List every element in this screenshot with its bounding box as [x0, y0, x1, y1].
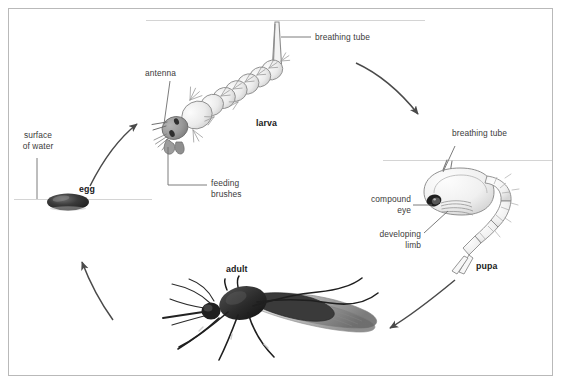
- stage-label-egg: egg: [79, 184, 95, 195]
- pupa-illustration: [424, 160, 519, 274]
- label-surface-of-water: surface of water: [12, 130, 64, 151]
- larva-illustration: [152, 22, 291, 154]
- stage-label-larva: larva: [256, 118, 277, 129]
- label-developing-limb: developing limb: [361, 229, 421, 250]
- label-compound-eye: compound eye: [351, 194, 411, 215]
- label-breathing-tube-larva: breathing tube: [315, 32, 370, 43]
- leader-antenna: [164, 81, 170, 124]
- arrow-adult-to-egg: [82, 262, 113, 320]
- label-breathing-tube-pupa: breathing tube: [452, 128, 507, 139]
- stage-label-adult: adult: [226, 264, 248, 275]
- label-feeding-brushes: feeding brushes: [211, 178, 242, 199]
- adult-illustration: [163, 276, 378, 360]
- leader-developing-limb: [424, 211, 448, 233]
- arrow-larva-to-pupa: [356, 63, 418, 114]
- leader-feeding-brushes: [168, 147, 207, 185]
- mosquito-life-cycle-figure: surface of water antenna feeding brushes…: [0, 0, 563, 386]
- arrow-egg-to-larva: [90, 124, 137, 186]
- egg-illustration: [47, 193, 89, 210]
- label-antenna: antenna: [145, 68, 176, 79]
- stage-label-pupa: pupa: [476, 261, 497, 272]
- arrow-pupa-to-adult: [390, 280, 455, 328]
